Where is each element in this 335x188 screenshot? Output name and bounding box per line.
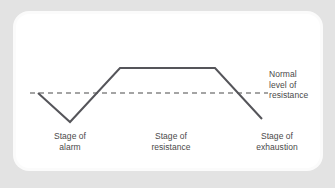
stage-label-alarm: Stage of alarm [28,131,112,152]
stage-label-alarm-line-1: Stage of [28,131,112,142]
normal-level-annotation: Normal level of resistance [269,69,321,101]
plot-area: Normal level of resistance Stage of alar… [16,14,320,168]
stage-label-exhaustion-line-1: Stage of [235,131,319,142]
stage-label-alarm-line-2: alarm [28,142,112,153]
normal-level-annotation-line-2: level of [269,80,321,91]
stage-label-resistance: Stage of resistance [129,131,213,152]
stage-label-exhaustion-line-2: exhaustion [235,142,319,153]
stage-label-resistance-line-2: resistance [129,142,213,153]
figure-root: Normal level of resistance Stage of alar… [0,0,335,188]
stage-label-exhaustion: Stage of exhaustion [235,131,319,152]
stage-label-resistance-line-1: Stage of [129,131,213,142]
diagram-card: Normal level of resistance Stage of alar… [16,14,320,168]
normal-level-annotation-line-3: resistance [269,90,321,101]
normal-level-annotation-line-1: Normal [269,69,321,80]
resistance-curve-line [38,68,262,122]
